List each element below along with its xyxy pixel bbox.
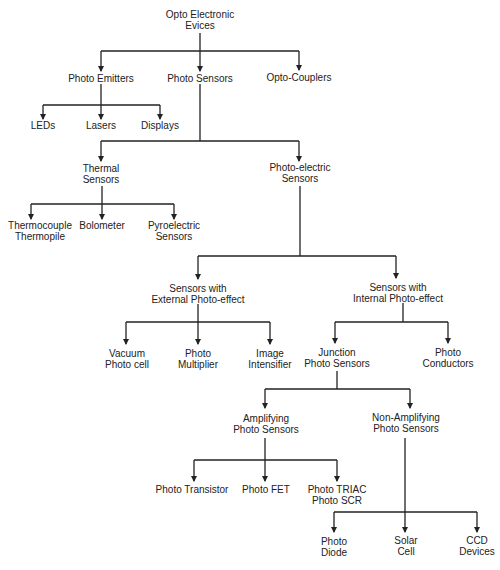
node-label: Photo: [321, 536, 347, 547]
node-label: Sensors: [83, 174, 120, 185]
node-amplifying-photo-sensors: Amplifying Photo Sensors: [233, 413, 299, 435]
node-label: Pyroelectric: [148, 220, 200, 231]
node-label: Photo: [178, 348, 218, 359]
node-label: External Photo-effect: [151, 294, 244, 305]
node-label: Photo cell: [105, 359, 149, 370]
node-external-photo-effect: Sensors with External Photo-effect: [151, 283, 244, 305]
node-solar-cell: Solar Cell: [394, 535, 417, 557]
node-junction-photo-sensors: Junction Photo Sensors: [304, 347, 370, 369]
node-label: Photo: [422, 347, 473, 358]
node-non-amplifying-photo-sensors: Non-Amplifying Photo Sensors: [372, 412, 440, 434]
node-thermal-sensors: Thermal Sensors: [83, 163, 120, 185]
node-photo-conductors: Photo Conductors: [422, 347, 473, 369]
node-photo-transistor: Photo Transistor: [156, 484, 229, 495]
node-label: Sensors: [269, 173, 330, 184]
node-thermocouple-thermopile: Thermocouple Thermopile: [8, 220, 72, 242]
node-label: Photo Transistor: [156, 484, 229, 495]
node-label: Junction: [304, 347, 370, 358]
node-label: Diode: [321, 547, 347, 558]
node-label: Vacuum: [105, 348, 149, 359]
node-bolometer: Bolometer: [79, 220, 125, 231]
node-opto-couplers: Opto-Couplers: [266, 72, 331, 83]
node-label: LEDs: [31, 120, 55, 131]
node-label: Photo Sensors: [372, 423, 440, 434]
node-pyroelectric-sensors: Pyroelectric Sensors: [148, 220, 200, 242]
node-label: Thermopile: [8, 231, 72, 242]
node-label: Internal Photo-effect: [353, 293, 443, 304]
node-photo-sensors: Photo Sensors: [167, 73, 233, 84]
node-label: Thermocouple: [8, 220, 72, 231]
node-photo-triac-scr: Photo TRIAC Photo SCR: [308, 484, 367, 506]
node-label: Sensors: [148, 231, 200, 242]
node-displays: Displays: [141, 120, 179, 131]
node-label: Amplifying: [233, 413, 299, 424]
node-photo-electric-sensors: Photo-electric Sensors: [269, 162, 330, 184]
node-label: Cell: [394, 546, 417, 557]
node-internal-photo-effect: Sensors with Internal Photo-effect: [353, 282, 443, 304]
node-label: Photo Emitters: [68, 73, 134, 84]
node-label: Sensors with: [151, 283, 244, 294]
node-label: Thermal: [83, 163, 120, 174]
node-ccd-devices: CCD Devices: [459, 535, 495, 557]
node-label: CCD: [459, 535, 495, 546]
node-label: Photo TRIAC: [308, 484, 367, 495]
node-photo-fet: Photo FET: [242, 484, 290, 495]
node-image-intensifier: Image Intensifier: [248, 348, 291, 370]
node-label: Photo FET: [242, 484, 290, 495]
node-label: Displays: [141, 120, 179, 131]
node-photo-emitters: Photo Emitters: [68, 73, 134, 84]
node-label: Photo Sensors: [167, 73, 233, 84]
node-photo-diode: Photo Diode: [321, 536, 347, 558]
node-label: Lasers: [86, 120, 116, 131]
node-photo-multiplier: Photo Multiplier: [178, 348, 218, 370]
node-label: Photo SCR: [308, 495, 367, 506]
node-label: Multiplier: [178, 359, 218, 370]
node-label: Bolometer: [79, 220, 125, 231]
node-label: Conductors: [422, 358, 473, 369]
node-label: Photo Sensors: [304, 358, 370, 369]
node-label: Photo Sensors: [233, 424, 299, 435]
node-label: Devices: [459, 546, 495, 557]
node-label: Solar: [394, 535, 417, 546]
node-vacuum-photo-cell: Vacuum Photo cell: [105, 348, 149, 370]
node-label: Opto-Couplers: [266, 72, 331, 83]
node-label: Non-Amplifying: [372, 412, 440, 423]
node-leds: LEDs: [31, 120, 55, 131]
node-label: Photo-electric: [269, 162, 330, 173]
node-label: Evices: [166, 20, 234, 31]
node-label: Image: [248, 348, 291, 359]
opto-electronic-devices-tree: Opto Electronic Evices Photo Emitters Ph…: [0, 0, 500, 570]
node-root: Opto Electronic Evices: [166, 9, 234, 31]
node-label: Sensors with: [353, 282, 443, 293]
node-label: Intensifier: [248, 359, 291, 370]
node-lasers: Lasers: [86, 120, 116, 131]
node-label: Opto Electronic: [166, 9, 234, 20]
